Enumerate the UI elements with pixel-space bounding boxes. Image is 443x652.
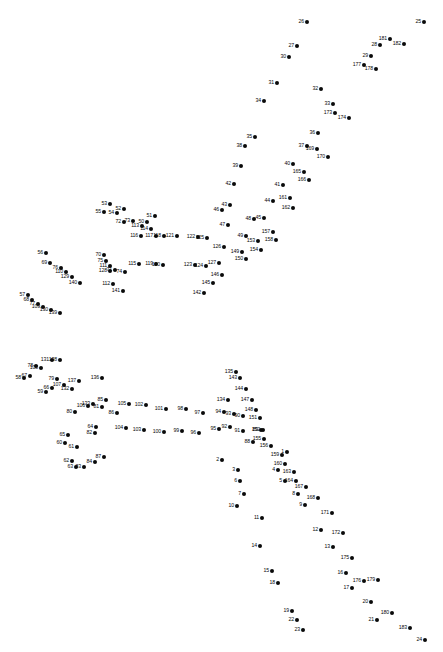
dot-marker: [369, 54, 373, 58]
dot-marker: [162, 430, 166, 434]
dot-label: 162: [282, 205, 290, 210]
dot-label: 117: [145, 233, 153, 238]
connect-the-dots-canvas: 1234567891011121314151617181920212223242…: [0, 0, 443, 652]
dot-label: 3: [232, 467, 235, 472]
dot-marker: [228, 203, 232, 207]
dot-marker: [376, 578, 380, 582]
dot-marker: [100, 405, 104, 409]
dot-label: 31: [269, 80, 274, 85]
dot-label: 72: [116, 219, 121, 224]
dot-marker: [341, 531, 345, 535]
dot-marker: [347, 116, 351, 120]
dot-marker: [287, 55, 291, 59]
dot-label: 180: [381, 610, 389, 615]
dot-marker: [180, 429, 184, 433]
dot-marker: [63, 441, 67, 445]
dot-marker: [423, 638, 427, 642]
dot-label: 12: [313, 527, 318, 532]
dot-label: 115: [128, 261, 136, 266]
dot-marker: [232, 412, 236, 416]
dot-label: 142: [193, 290, 201, 295]
dot-label: 167: [295, 484, 303, 489]
dot-marker: [175, 234, 179, 238]
dot-marker: [275, 81, 279, 85]
dot-marker: [243, 144, 247, 148]
dot-marker: [93, 431, 97, 435]
dot-label: 54: [109, 210, 114, 215]
dot-marker: [149, 227, 153, 231]
dot-marker: [124, 426, 128, 430]
dot-marker: [250, 398, 254, 402]
dot-marker: [301, 628, 305, 632]
dot-marker: [28, 374, 32, 378]
dot-label: 155: [253, 436, 261, 441]
dot-marker: [375, 618, 379, 622]
dot-label: 5: [279, 478, 282, 483]
dot-label: 124: [195, 263, 203, 268]
dot-marker: [316, 496, 320, 500]
dot-label: 26: [299, 19, 304, 24]
dot-label: 157: [262, 229, 270, 234]
dot-label: 44: [265, 198, 270, 203]
dot-marker: [241, 429, 245, 433]
dot-label: 6: [234, 478, 237, 483]
dot-marker: [77, 379, 81, 383]
dot-label: 82: [87, 430, 92, 435]
dot-label: 95: [211, 426, 216, 431]
dot-label: 138: [49, 357, 57, 362]
dot-marker: [161, 263, 165, 267]
dot-label: 65: [60, 432, 65, 437]
dot-label: 133: [82, 401, 90, 406]
dot-label: 63: [68, 464, 73, 469]
dot-marker: [252, 217, 256, 221]
dot-label: 40: [285, 161, 290, 166]
dot-label: 49: [238, 233, 243, 238]
dot-marker: [350, 586, 354, 590]
dot-label: 20: [363, 599, 368, 604]
dot-marker: [262, 437, 266, 441]
dot-label: 116: [130, 233, 138, 238]
dot-label: 43: [222, 202, 227, 207]
dot-label: 56: [38, 250, 43, 255]
dot-label: 51: [147, 213, 152, 218]
dot-label: 10: [229, 503, 234, 508]
dot-label: 73: [125, 218, 130, 223]
dot-label: 83: [76, 464, 81, 469]
dot-marker: [100, 376, 104, 380]
dot-marker: [220, 273, 224, 277]
dot-marker: [217, 261, 221, 265]
dot-label: 74: [117, 269, 122, 274]
dot-marker: [78, 281, 82, 285]
dot-marker: [241, 414, 245, 418]
dot-marker: [276, 581, 280, 585]
dot-marker: [145, 220, 149, 224]
dot-label: 67: [22, 373, 27, 378]
dot-marker: [239, 164, 243, 168]
dot-label: 68: [24, 297, 29, 302]
dot-marker: [58, 311, 62, 315]
dot-marker: [102, 210, 106, 214]
dot-label: 123: [184, 262, 192, 267]
dot-marker: [295, 44, 299, 48]
dot-marker: [258, 544, 262, 548]
dot-label: 125: [196, 235, 204, 240]
dot-marker: [122, 207, 126, 211]
dot-label: 23: [295, 627, 300, 632]
dot-label: 37: [299, 143, 304, 148]
dot-marker: [260, 516, 264, 520]
dot-marker: [232, 182, 236, 186]
dot-label: 147: [241, 397, 249, 402]
dot-label: 183: [399, 625, 407, 630]
dot-marker: [226, 223, 230, 227]
dot-marker: [127, 402, 131, 406]
dot-marker: [295, 618, 299, 622]
dot-label: 29: [363, 53, 368, 58]
dot-label: 164: [285, 478, 293, 483]
dot-marker: [262, 216, 266, 220]
dot-label: 169: [306, 146, 314, 151]
dot-marker: [66, 433, 70, 437]
dot-label: 88: [245, 439, 250, 444]
dot-label: 2: [216, 457, 219, 462]
dot-label: 60: [57, 440, 62, 445]
dot-marker: [319, 87, 323, 91]
